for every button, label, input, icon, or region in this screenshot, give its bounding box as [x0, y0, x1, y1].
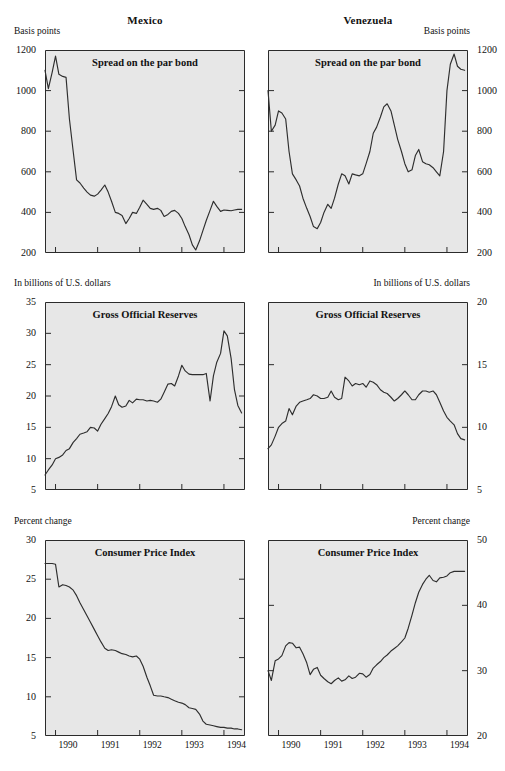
x-tick-label: 1990 — [59, 741, 78, 751]
axis-caption: Percent change — [412, 516, 470, 526]
y-tick-label: 20 — [0, 613, 36, 623]
plot-area-mexico-reserves: Gross Official Reserves — [45, 302, 245, 490]
y-tick-label: 5 — [0, 731, 36, 741]
axis-caption: In billions of U.S. dollars — [373, 278, 470, 288]
panel-venezuela-spread: Basis pointsSpread on the par bond200400… — [223, 16, 468, 279]
y-tick-label: 600 — [477, 167, 492, 177]
y-tick-label: 30 — [0, 328, 36, 338]
plot-title: Consumer Price Index — [45, 547, 245, 558]
y-tick-label: 200 — [477, 248, 492, 258]
y-tick-label: 20 — [477, 731, 487, 741]
series-line — [268, 54, 465, 229]
axis-caption: Basis points — [424, 26, 470, 36]
plot-title: Spread on the par bond — [268, 57, 468, 68]
series-line — [268, 377, 465, 448]
y-tick-label: 800 — [0, 126, 36, 136]
y-tick-label: 10 — [477, 422, 487, 432]
y-tick-label: 15 — [0, 422, 36, 432]
y-tick-label: 15 — [0, 653, 36, 663]
y-tick-label: 30 — [477, 666, 487, 676]
y-tick-label: 25 — [0, 574, 36, 584]
panel-mexico-cpi: Percent changeConsumer Price Index510152… — [0, 506, 245, 762]
x-tick-label: 1991 — [324, 741, 343, 751]
plot-title: Gross Official Reserves — [268, 309, 468, 320]
panel-mexico-spread: Basis pointsSpread on the par bond200400… — [0, 16, 245, 279]
plot-area-venezuela-reserves: Gross Official Reserves — [268, 302, 468, 490]
panel-venezuela-cpi: Percent changeConsumer Price Index203040… — [223, 506, 468, 762]
plot-title: Spread on the par bond — [45, 57, 245, 68]
plot-area-venezuela-spread: Spread on the par bond — [268, 50, 468, 253]
y-tick-label: 400 — [477, 207, 492, 217]
axis-caption: Percent change — [14, 516, 72, 526]
plot-frame — [269, 51, 468, 253]
y-tick-label: 10 — [0, 692, 36, 702]
y-tick-label: 40 — [477, 600, 487, 610]
y-tick-label: 200 — [0, 248, 36, 258]
y-tick-label: 35 — [0, 297, 36, 307]
y-tick-label: 1200 — [0, 45, 36, 55]
y-tick-label: 20 — [0, 391, 36, 401]
panel-mexico-reserves: In billions of U.S. dollarsGross Officia… — [0, 268, 245, 516]
y-tick-label: 1200 — [477, 45, 497, 55]
series-line — [268, 571, 465, 683]
plot-area-mexico-spread: Spread on the par bond — [45, 50, 245, 253]
axis-caption: Basis points — [14, 26, 60, 36]
plot-title: Consumer Price Index — [268, 547, 468, 558]
y-tick-label: 50 — [477, 535, 487, 545]
plot-title: Gross Official Reserves — [45, 309, 245, 320]
y-tick-label: 25 — [0, 360, 36, 370]
y-tick-label: 400 — [0, 207, 36, 217]
y-tick-label: 15 — [477, 360, 487, 370]
y-tick-label: 600 — [0, 167, 36, 177]
plot-area-venezuela-cpi: Consumer Price Index — [268, 540, 468, 736]
x-tick-label: 1992 — [143, 741, 162, 751]
y-tick-label: 1000 — [0, 86, 36, 96]
series-line — [45, 331, 242, 475]
x-tick-label: 1993 — [408, 741, 427, 751]
plot-frame — [46, 303, 245, 490]
x-tick-label: 1993 — [185, 741, 204, 751]
plot-frame — [269, 541, 468, 736]
y-tick-label: 5 — [477, 485, 482, 495]
y-tick-label: 1000 — [477, 86, 497, 96]
panel-venezuela-reserves: In billions of U.S. dollarsGross Officia… — [223, 268, 468, 516]
y-tick-label: 10 — [0, 454, 36, 464]
figure-country-indicators: Mexico Venezuela Basis pointsSpread on t… — [0, 0, 505, 771]
series-line — [45, 564, 242, 730]
y-tick-label: 800 — [477, 126, 492, 136]
y-tick-label: 30 — [0, 535, 36, 545]
x-tick-label: 1990 — [282, 741, 301, 751]
x-tick-label: 1992 — [366, 741, 385, 751]
axis-caption: In billions of U.S. dollars — [14, 278, 111, 288]
y-tick-label: 5 — [0, 485, 36, 495]
series-line — [45, 56, 242, 250]
plot-frame — [46, 541, 245, 736]
plot-area-mexico-cpi: Consumer Price Index — [45, 540, 245, 736]
plot-frame — [46, 51, 245, 253]
plot-frame — [269, 303, 468, 490]
x-tick-label: 1991 — [101, 741, 120, 751]
x-tick-label: 1994 — [450, 741, 469, 751]
y-tick-label: 20 — [477, 297, 487, 307]
